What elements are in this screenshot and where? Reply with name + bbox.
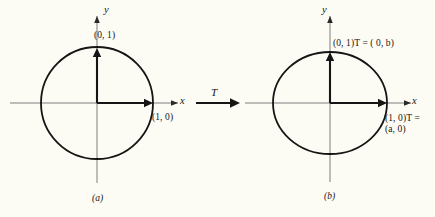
panel-b-vector-e2-arrowhead — [326, 52, 334, 61]
panel-a-y-axis-arrowhead — [94, 16, 100, 23]
panel-a-vector-e2-label: (0, 1) — [94, 30, 115, 41]
panel-b-vector-e1-label-line2: (a, 0) — [385, 124, 406, 135]
panel-b-vector-e2-label: (0, 1)T = ( 0, b) — [333, 38, 394, 49]
panel-a-vector-e2-arrowhead — [93, 48, 101, 57]
panel-a-caption: (a) — [92, 193, 103, 203]
panel-a-x-axis-label: x — [180, 95, 185, 106]
panel-b-x-axis-arrowhead — [404, 100, 411, 106]
panel-a-vector-e1-label: (1, 0) — [152, 112, 173, 123]
panel-b-caption: (b) — [324, 191, 335, 201]
panel-b-vector-e1-arrowhead — [378, 99, 387, 107]
figure-vector-graphics — [0, 0, 435, 217]
panel-b-vector-e1-label-line1: (1, 0)T = — [385, 113, 420, 124]
panel-b-y-axis-arrowhead — [327, 16, 333, 23]
panel-b-y-axis-label: y — [322, 4, 327, 15]
panel-b-x-axis-label: x — [412, 95, 417, 106]
transform-operator-label: T — [211, 86, 217, 98]
figure-unit-circle-transform: (0, 1) (1, 0) y x (a) T (0, 1)T = ( 0, b… — [0, 0, 435, 217]
transform-arrow-head — [230, 98, 240, 107]
panel-a-x-axis-arrowhead — [171, 100, 178, 106]
panel-a-vector-e1-arrowhead — [144, 99, 153, 107]
panel-a-y-axis-label: y — [104, 4, 109, 15]
